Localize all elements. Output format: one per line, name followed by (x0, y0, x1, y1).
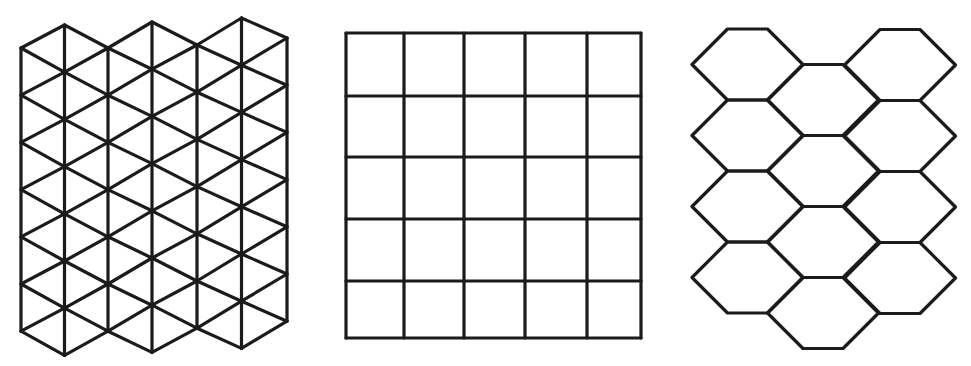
tessellation-diagram (0, 0, 971, 366)
background (0, 0, 971, 366)
